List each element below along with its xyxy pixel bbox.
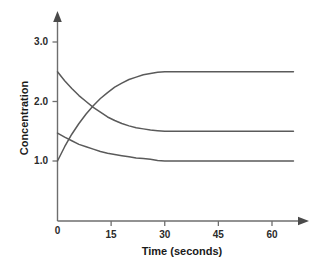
x-tick-label: 30 (145, 229, 185, 240)
y-tick-label: 1.0 (8, 155, 48, 166)
x-tick-label: 60 (252, 229, 292, 240)
y-tick-label: 2.0 (8, 96, 48, 107)
data-series-line (58, 72, 294, 132)
x-tick-label: 45 (198, 229, 238, 240)
y-axis-ticks (53, 42, 58, 161)
x-tick-label: 0 (38, 225, 78, 236)
x-axis-ticks (111, 221, 272, 226)
y-tick-label: 3.0 (8, 36, 48, 47)
x-axis-label: Time (seconds) (57, 245, 307, 257)
concentration-vs-time-chart: Concentration Time (seconds) 1.02.03.001… (0, 0, 332, 273)
x-tick-label: 15 (91, 229, 131, 240)
data-series-line (58, 72, 294, 161)
data-series-group (58, 72, 294, 161)
x-axis-arrow-icon (298, 217, 309, 226)
data-series-line (58, 133, 294, 161)
y-axis-arrow-icon (53, 11, 62, 22)
